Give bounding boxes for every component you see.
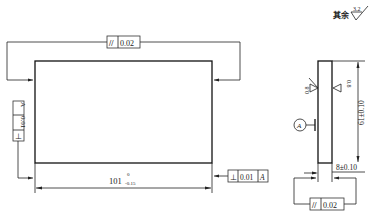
- right-roughness-mark: 0.8: [333, 80, 352, 92]
- side-view-outline: [318, 61, 332, 163]
- thickness-value: 8±0.10: [336, 163, 357, 172]
- front-view-outline: [35, 61, 212, 163]
- perpendicularity-symbol-icon: ⊥: [15, 132, 22, 141]
- height-value: 61±0.10: [357, 100, 366, 125]
- right-fcf-tolerance: 0.01: [240, 173, 253, 182]
- left-roughness-value: 0.8: [304, 87, 310, 95]
- top-fcf-tolerance: 0.02: [120, 39, 134, 48]
- parallelism-symbol-icon: //: [108, 39, 114, 48]
- left-fcf-datum: A: [19, 102, 27, 107]
- technical-drawing: 其余 3.2 // 0.02 A 0.01 ⊥ ⊥ 0.01 A: [0, 0, 386, 224]
- perpendicularity-symbol-icon: ⊥: [230, 173, 237, 182]
- parallelism-symbol-icon: //: [311, 201, 317, 210]
- right-fcf-datum: A: [259, 173, 265, 182]
- top-parallelism-callout: // 0.02: [7, 36, 240, 82]
- bottom-fcf-tolerance: 0.02: [323, 201, 337, 210]
- datum-label: A: [296, 122, 302, 130]
- left-fcf-tolerance: 0.01: [19, 116, 27, 129]
- length-lower-deviation: -0.15: [125, 181, 136, 186]
- title-note-text: 其余: [333, 10, 350, 20]
- datum-a-marker: A: [294, 119, 315, 131]
- bottom-parallelism-callout: // 0.02: [294, 177, 356, 211]
- left-roughness-mark: 0.8: [304, 78, 318, 94]
- left-perpendicularity-callout: A 0.01 ⊥: [13, 101, 33, 180]
- length-upper-deviation: 0: [127, 172, 130, 177]
- height-dimension: 61±0.10: [332, 61, 366, 162]
- length-dimension: 101 0 -0.15: [35, 163, 212, 193]
- length-value: 101: [109, 176, 122, 186]
- right-perpendicularity-callout: ⊥ 0.01 A: [214, 170, 268, 182]
- right-roughness-value: 0.8: [346, 80, 352, 88]
- general-roughness-value: 3.2: [353, 6, 361, 12]
- general-roughness-note: 其余 3.2: [333, 6, 368, 20]
